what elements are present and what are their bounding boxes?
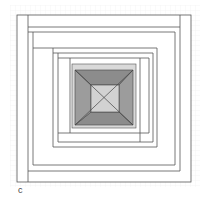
- log-cabin-diagram: [0, 0, 205, 200]
- shaded-center: [72, 64, 136, 128]
- figure-label: c: [18, 185, 23, 195]
